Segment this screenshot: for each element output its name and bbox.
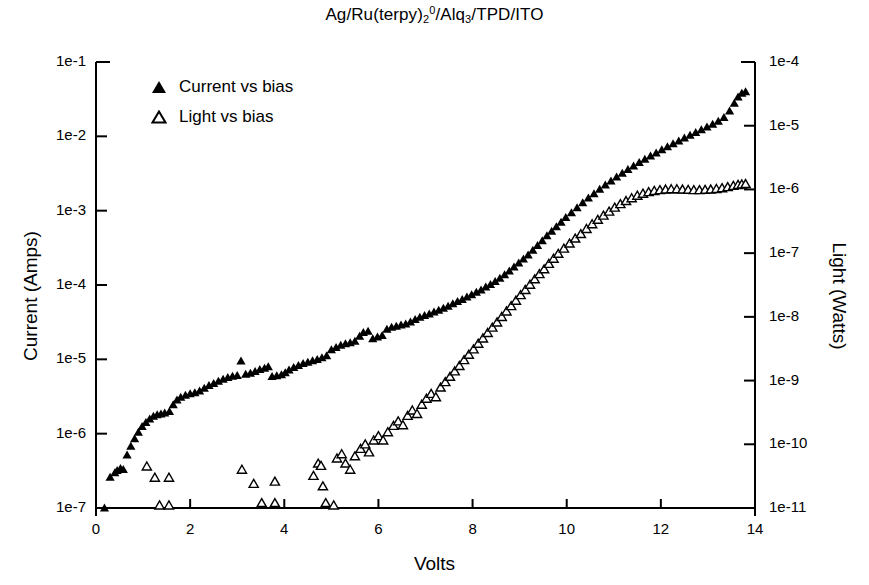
y-axis-right-tick-label: 1e-4 [769, 52, 849, 69]
y-axis-right-tick-label: 1e-8 [769, 307, 849, 324]
y-axis-left-tick-label: 1e-2 [10, 126, 86, 143]
data-point [164, 473, 173, 481]
data-point [237, 465, 246, 473]
x-axis-tick-label: 12 [636, 520, 686, 537]
data-point [318, 482, 327, 490]
y-axis-right-tick-label: 1e-6 [769, 179, 849, 196]
open-triangle-icon [148, 107, 170, 127]
y-axis-left-tick-label: 1e-5 [10, 349, 86, 366]
data-point [257, 499, 266, 507]
x-axis-tick-label: 14 [730, 520, 780, 537]
chart-figure: Ag/Ru(terpy)20/Alq3/TPD/ITO Current (Amp… [0, 0, 869, 585]
x-axis-tick-label: 0 [71, 520, 121, 537]
data-point [321, 499, 330, 507]
y-axis-right-tick-label: 1e-10 [769, 434, 849, 451]
x-axis-tick-label: 6 [353, 520, 403, 537]
data-point [725, 106, 734, 114]
data-point [122, 450, 131, 458]
legend-label-current: Current vs bias [179, 77, 293, 97]
data-point [341, 459, 350, 467]
data-point [126, 442, 135, 450]
x-axis-tick-label: 10 [542, 520, 592, 537]
x-axis-tick-label: 2 [165, 520, 215, 537]
legend-item-current: Current vs bias [148, 72, 293, 102]
y-axis-right-tick-label: 1e-9 [769, 371, 849, 388]
y-axis-left-tick-label: 1e-3 [10, 201, 86, 218]
data-point [337, 450, 346, 458]
y-axis-left-tick-label: 1e-4 [10, 275, 86, 292]
data-point [270, 477, 279, 485]
data-point [249, 479, 258, 487]
data-point [364, 448, 373, 456]
data-point [309, 471, 318, 479]
data-point [142, 462, 151, 470]
filled-triangle-icon [148, 77, 170, 97]
series-current [100, 87, 750, 511]
y-axis-left-tick-label: 1e-6 [10, 424, 86, 441]
x-axis-tick-label: 4 [259, 520, 309, 537]
y-axis-left-tick-label: 1e-7 [10, 498, 86, 515]
data-point [155, 501, 164, 509]
data-point [164, 501, 173, 509]
legend-item-light: Light vs bias [148, 102, 293, 132]
y-axis-left-ticks [96, 62, 107, 508]
data-point [270, 499, 279, 507]
y-axis-right-tick-label: 1e-7 [769, 243, 849, 260]
y-axis-right-tick-label: 1e-5 [769, 116, 849, 133]
data-point [329, 501, 338, 509]
y-axis-left-tick-label: 1e-1 [10, 52, 86, 69]
plot-area [0, 0, 869, 585]
data-point [150, 473, 159, 481]
x-axis-title: Volts [0, 553, 869, 575]
data-point [236, 357, 245, 365]
legend-label-light: Light vs bias [179, 107, 274, 127]
series-light [142, 180, 750, 509]
x-axis-tick-label: 8 [448, 520, 498, 537]
chart-legend: Current vs bias Light vs bias [148, 72, 293, 132]
y-axis-right-tick-label: 1e-11 [769, 498, 849, 515]
x-axis-ticks [96, 497, 755, 516]
y-axis-right-ticks [744, 62, 755, 508]
